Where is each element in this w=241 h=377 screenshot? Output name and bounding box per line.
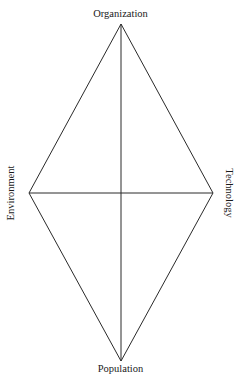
node-label-population: Population: [0, 364, 241, 375]
ecosystem-diamond-diagram: Organization Population Environment Tech…: [0, 0, 241, 377]
node-label-technology: Technology: [224, 168, 235, 217]
node-label-organization: Organization: [0, 9, 241, 20]
node-label-environment: Environment: [6, 166, 17, 221]
diamond-diagram-svg: [0, 0, 241, 377]
